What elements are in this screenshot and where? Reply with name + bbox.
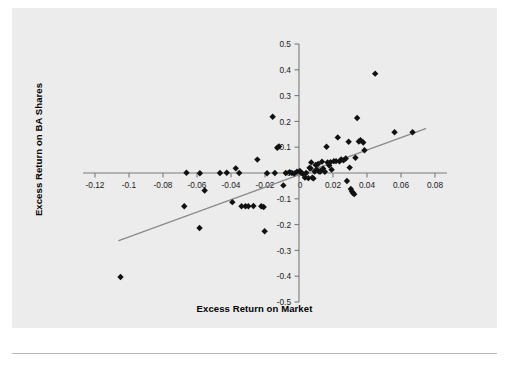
data-point — [196, 225, 202, 231]
data-point — [254, 156, 260, 162]
data-point — [250, 203, 256, 209]
data-point — [233, 165, 239, 171]
data-point — [261, 228, 267, 234]
data-point — [344, 178, 350, 184]
x-axis-title: Excess Return on Market — [12, 303, 497, 314]
y-tick-label: 0.4 — [279, 65, 291, 75]
x-tick-label: -0.1 — [122, 180, 137, 190]
data-point — [197, 170, 203, 176]
chart-figure: -0.12-0.1-0.08-0.06-0.04-0.020.020.040.0… — [12, 8, 497, 328]
x-tick-label: 0.08 — [427, 180, 444, 190]
scatter-plot-canvas: -0.12-0.1-0.08-0.06-0.04-0.020.020.040.0… — [12, 8, 497, 328]
data-point — [217, 170, 223, 176]
data-point — [181, 203, 187, 209]
data-point — [346, 164, 352, 170]
y-tick-label: -0.4 — [277, 271, 292, 281]
y-tick-label: -0.3 — [277, 246, 292, 256]
data-point — [280, 182, 286, 188]
y-axis-title: Excess Return on BA Shares — [33, 80, 44, 220]
y-tick-label: 0.5 — [279, 39, 291, 49]
x-tick-label-zero: 0 — [298, 180, 303, 190]
x-tick-label: -0.08 — [154, 180, 173, 190]
x-tick-label: -0.12 — [86, 180, 105, 190]
chart-page: -0.12-0.1-0.08-0.06-0.04-0.020.020.040.0… — [0, 0, 509, 367]
data-point — [372, 70, 378, 76]
data-points — [117, 70, 415, 280]
data-point — [345, 139, 351, 145]
data-point — [117, 274, 123, 280]
y-tick-label: -0.2 — [277, 220, 292, 230]
x-tick-label: 0.04 — [359, 180, 376, 190]
data-point — [272, 170, 278, 176]
data-point — [335, 134, 341, 140]
x-tick-label: 0.02 — [325, 180, 342, 190]
data-point — [224, 170, 230, 176]
x-tick-label: -0.04 — [222, 180, 241, 190]
data-point — [269, 114, 275, 120]
data-point — [391, 129, 397, 135]
data-point — [323, 143, 329, 149]
y-tick-label: 0.2 — [279, 117, 291, 127]
footer-divider — [12, 353, 497, 354]
data-point — [236, 170, 242, 176]
data-point — [361, 147, 367, 153]
x-tick-label: 0.06 — [393, 180, 410, 190]
y-tick-label: -0.1 — [277, 194, 292, 204]
data-point — [183, 170, 189, 176]
data-point — [354, 115, 360, 121]
y-tick-label: 0.3 — [279, 91, 291, 101]
